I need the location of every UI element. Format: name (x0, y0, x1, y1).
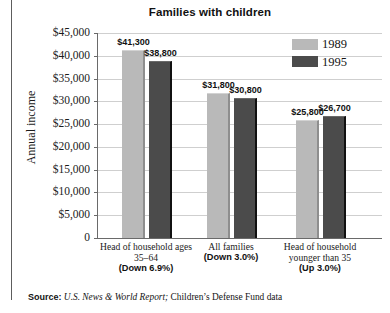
legend-label-1995: 1995 (322, 56, 347, 69)
y-axis-tick (94, 124, 98, 125)
y-axis-tick (94, 79, 98, 80)
chart-legend: 1989 1995 (292, 38, 384, 73)
category-label-line: All families (188, 241, 274, 252)
y-axis-tick-label: $15,000 (0, 163, 90, 175)
y-axis-tick-label: $30,000 (0, 94, 90, 106)
category-change-label: (Down 6.9%) (87, 263, 205, 274)
source-note: Source: U.S. News & World Report; Childr… (28, 292, 282, 302)
category-label-group-3: Head of householdyounger than 35(Up 3.0%… (266, 241, 374, 275)
y-axis-tick-label: $40,000 (0, 49, 90, 61)
y-axis-tick (94, 192, 98, 193)
category-change-label: (Up 3.0%) (266, 263, 374, 274)
bar-value-label: $26,700 (314, 103, 355, 113)
legend-item-1989: 1989 (292, 38, 384, 51)
legend-item-1995: 1995 (292, 56, 384, 69)
y-axis-tick (94, 147, 98, 148)
legend-label-1989: 1989 (322, 38, 347, 51)
bar-value-label: $41,300 (113, 37, 154, 47)
y-axis-tick-label: $45,000 (0, 26, 90, 38)
y-axis-tick-label: $20,000 (0, 140, 90, 152)
figure-container: Families with children Annual income $41… (0, 0, 390, 313)
y-axis-tick (94, 33, 98, 34)
category-label-line: Head of household (266, 241, 374, 252)
bar-value-label: $38,800 (140, 48, 181, 58)
y-axis-tick (94, 215, 98, 216)
chart-title: Families with children (95, 6, 325, 18)
source-publication: U.S. News & World Report; (64, 292, 168, 302)
bar-1995-group-1 (149, 61, 172, 238)
category-change-label: (Down 3.0%) (188, 252, 274, 263)
bar-1995-group-3 (323, 116, 346, 238)
source-label: Source: (28, 292, 62, 302)
y-axis-tick-label: $5,000 (0, 208, 90, 220)
y-axis-tick (94, 101, 98, 102)
bar-1995-group-2 (234, 98, 257, 238)
y-axis-tick (94, 56, 98, 57)
y-axis-tick (94, 170, 98, 171)
category-label-group-2: All families(Down 3.0%) (188, 241, 274, 263)
y-axis-tick-label: $10,000 (0, 185, 90, 197)
bar-value-label: $30,800 (225, 85, 266, 95)
bar-1989-group-1 (122, 50, 145, 238)
gridline (98, 33, 382, 34)
bar-1989-group-2 (207, 93, 230, 238)
legend-swatch-icon-1989 (292, 39, 318, 50)
source-rest: Children’s Defense Fund data (171, 292, 283, 302)
y-axis-tick-label: $25,000 (0, 117, 90, 129)
category-label-line: younger than 35 (266, 252, 374, 263)
x-axis-line (97, 238, 382, 239)
y-axis-tick-label: 0 (0, 231, 90, 243)
legend-swatch-icon-1995 (292, 56, 318, 67)
bar-1989-group-3 (296, 120, 319, 238)
y-axis-tick-label: $35,000 (0, 72, 90, 84)
